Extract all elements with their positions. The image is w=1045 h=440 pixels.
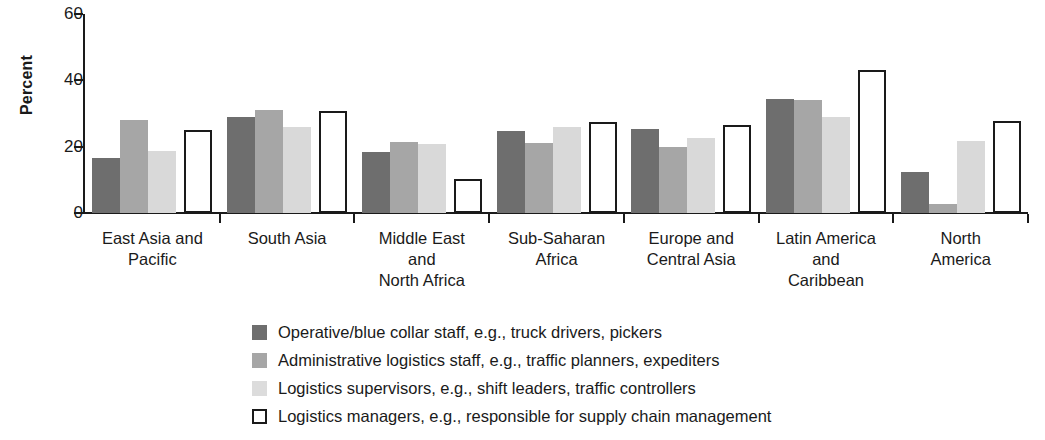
y-axis-ticks: 0204060	[0, 0, 83, 230]
bar[interactable]	[957, 141, 985, 213]
bar[interactable]	[794, 100, 822, 213]
chart-legend: Operative/blue collar staff, e.g., truck…	[252, 318, 952, 430]
category-label-line: and	[356, 249, 487, 270]
bar-group-bars	[759, 14, 894, 213]
x-axis-category-label: Sub-SaharanAfrica	[489, 228, 624, 291]
bar[interactable]	[822, 117, 850, 213]
x-axis-category-label: NorthAmerica	[893, 228, 1028, 291]
x-axis-category-label: South Asia	[220, 228, 355, 291]
category-label-line: America	[895, 249, 1026, 270]
category-label-line: East Asia and	[87, 228, 218, 249]
category-label-line: Pacific	[87, 249, 218, 270]
bar[interactable]	[687, 138, 715, 213]
bar[interactable]	[631, 129, 659, 213]
dark-gray-swatch	[252, 325, 267, 340]
x-axis-category-label: Europe andCentral Asia	[624, 228, 759, 291]
bar-group-bars	[85, 14, 220, 213]
bar[interactable]	[901, 172, 929, 213]
bar[interactable]	[858, 70, 886, 213]
category-label-line: Sub-Saharan	[491, 228, 622, 249]
x-axis-group-tick	[219, 214, 221, 223]
bar[interactable]	[227, 117, 255, 213]
category-label-line: Europe and	[626, 228, 757, 249]
category-label-line: and	[761, 249, 892, 270]
category-label-line: Caribbean	[761, 270, 892, 291]
bar-group	[85, 14, 220, 213]
category-label-line: South Asia	[222, 228, 353, 249]
bar[interactable]	[659, 147, 687, 213]
bar[interactable]	[454, 179, 482, 213]
category-label-line: Africa	[491, 249, 622, 270]
y-axis-tick-mark	[74, 13, 83, 15]
bar[interactable]	[723, 125, 751, 213]
legend-item[interactable]: Logistics supervisors, e.g., shift leade…	[252, 374, 952, 402]
bar[interactable]	[148, 151, 176, 213]
x-axis-group-tick	[892, 214, 894, 223]
legend-item[interactable]: Administrative logistics staff, e.g., tr…	[252, 346, 952, 374]
bar-groups	[85, 14, 1028, 213]
light-gray-swatch	[252, 381, 267, 396]
bar[interactable]	[525, 143, 553, 213]
x-axis-group-tick	[488, 214, 490, 223]
x-axis-group-tick	[1027, 214, 1029, 223]
bar[interactable]	[553, 127, 581, 213]
y-axis-tick-mark	[74, 212, 83, 214]
medium-gray-swatch	[252, 353, 267, 368]
x-axis-category-labels: East Asia andPacificSouth AsiaMiddle Eas…	[85, 228, 1028, 291]
category-label-line: North	[895, 228, 1026, 249]
legend-item[interactable]: Logistics managers, e.g., responsible fo…	[252, 402, 952, 430]
white-outline-swatch	[252, 409, 267, 424]
bar-group-bars	[893, 14, 1028, 213]
bar-group	[893, 14, 1028, 213]
category-label-line: Latin America	[761, 228, 892, 249]
bar-group	[624, 14, 759, 213]
bar-group	[354, 14, 489, 213]
y-axis-tick-mark	[74, 79, 83, 81]
legend-item-label: Logistics managers, e.g., responsible fo…	[278, 406, 771, 426]
x-axis-category-label: East Asia andPacific	[85, 228, 220, 291]
bar-group-bars	[220, 14, 355, 213]
bar[interactable]	[184, 130, 212, 213]
bar[interactable]	[390, 142, 418, 213]
x-axis-category-label: Middle EastandNorth Africa	[354, 228, 489, 291]
bar[interactable]	[497, 131, 525, 213]
bar-group-bars	[354, 14, 489, 213]
x-axis-group-tick	[353, 214, 355, 223]
bar[interactable]	[418, 144, 446, 213]
bar[interactable]	[993, 121, 1021, 213]
bar-group	[759, 14, 894, 213]
y-axis-tick-mark	[74, 146, 83, 148]
bar-group	[489, 14, 624, 213]
bar[interactable]	[92, 158, 120, 213]
bar[interactable]	[766, 99, 794, 213]
legend-item-label: Operative/blue collar staff, e.g., truck…	[278, 322, 662, 342]
bar[interactable]	[283, 127, 311, 213]
bar-group-bars	[489, 14, 624, 213]
bar-chart-figure: Percent 0204060 East Asia andPacificSout…	[0, 0, 1045, 440]
bar[interactable]	[319, 111, 347, 213]
bar[interactable]	[120, 120, 148, 213]
bar[interactable]	[929, 204, 957, 213]
bar[interactable]	[362, 152, 390, 213]
legend-item[interactable]: Operative/blue collar staff, e.g., truck…	[252, 318, 952, 346]
category-label-line: Middle East	[356, 228, 487, 249]
x-axis-category-label: Latin AmericaandCaribbean	[759, 228, 894, 291]
bar[interactable]	[589, 122, 617, 213]
x-axis-group-tick	[623, 214, 625, 223]
x-axis-group-tick	[758, 214, 760, 223]
legend-item-label: Logistics supervisors, e.g., shift leade…	[278, 378, 696, 398]
bar-group-bars	[624, 14, 759, 213]
category-label-line: Central Asia	[626, 249, 757, 270]
bar[interactable]	[255, 110, 283, 213]
category-label-line: North Africa	[356, 270, 487, 291]
legend-item-label: Administrative logistics staff, e.g., tr…	[278, 350, 719, 370]
bar-group	[220, 14, 355, 213]
